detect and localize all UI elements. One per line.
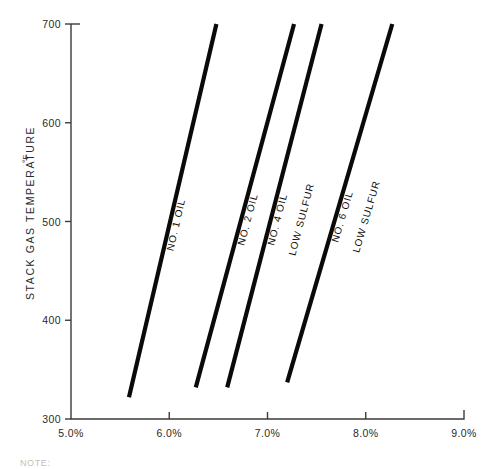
series-label: LOW SULFUR [350, 179, 382, 254]
stack-gas-temperature-chart: 300400500600700 5.0%6.0%7.0%8.0%9.0% NO.… [0, 0, 494, 469]
x-tick-label: 5.0% [58, 427, 84, 439]
y-axis-title: STACK GAS TEMPERATURE °F [21, 126, 36, 300]
x-tick-label: 6.0% [156, 427, 182, 439]
series-label: LOW SULFUR [287, 182, 316, 257]
y-axis-title-text: STACK GAS TEMPERATURE [24, 126, 36, 300]
svg-text:STACK GAS TEMPERATURE: STACK GAS TEMPERATURE [24, 126, 36, 300]
y-axis-unit-text: °F [21, 155, 30, 163]
chart-container: 300400500600700 5.0%6.0%7.0%8.0%9.0% NO.… [0, 0, 494, 469]
x-tick-label: 8.0% [353, 427, 379, 439]
y-tick-label: 400 [42, 314, 61, 326]
x-tick-label: 9.0% [451, 427, 477, 439]
y-axis-ticks: 300400500600700 [42, 18, 71, 425]
chart-axes [71, 24, 464, 419]
y-tick-label: 500 [42, 216, 61, 228]
svg-text:°F: °F [21, 155, 30, 163]
series-label: NO. 6 OIL [329, 190, 355, 244]
y-tick-label: 600 [42, 117, 61, 129]
chart-series-labels: NO. 1 OILNO. 2 OILNO. 4 OILLOW SULFURNO.… [164, 179, 382, 257]
chart-series [129, 24, 392, 397]
y-tick-label: 300 [42, 413, 61, 425]
footer-note: NOTE: [20, 458, 51, 468]
x-axis-ticks: 5.0%6.0%7.0%8.0%9.0% [58, 412, 477, 439]
x-tick-label: 7.0% [255, 427, 281, 439]
y-tick-label: 700 [42, 18, 61, 30]
series-label: NO. 2 OIL [235, 192, 259, 246]
